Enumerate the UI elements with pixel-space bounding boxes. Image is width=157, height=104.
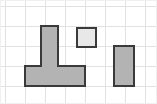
- shape-diagram-canvas: [0, 0, 157, 104]
- shape-canvas-svg: [0, 0, 157, 104]
- tall-rectangle[interactable]: [114, 46, 134, 86]
- small-square[interactable]: [77, 28, 96, 47]
